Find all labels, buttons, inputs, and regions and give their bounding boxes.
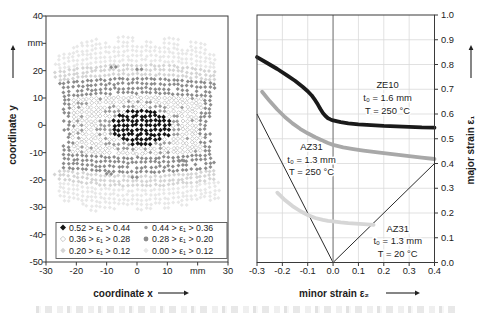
series-label-AZ31-20C: AZ31: [387, 223, 409, 234]
y-tick-label: 0.1: [441, 233, 454, 243]
x-tick-label: -0.1: [300, 266, 316, 276]
y-tick-label: -30: [30, 202, 43, 212]
y-tick-label: 0.6: [441, 109, 454, 119]
y-tick-label: 10: [33, 93, 43, 103]
dots-band-0.44-0.52: [111, 108, 171, 146]
x-axis-title: coordinate x: [93, 288, 153, 299]
x-tick-label: 0.1: [352, 266, 365, 276]
x-tick-label: 0.0: [327, 266, 340, 276]
series-label-AZ31-20C: T = 20 °C: [378, 248, 418, 259]
series-label-ZE10: T = 250 °C: [365, 105, 410, 116]
x-tick-label: 10: [162, 266, 172, 276]
legend-item: 0.52 > ε₁ > 0.44: [60, 223, 130, 233]
legend-item: 0.20 > ε₁ > 0.12: [60, 246, 130, 256]
y-axis-arrow-icon-head: [469, 45, 474, 50]
y-tick-label: 0.7: [441, 84, 454, 94]
x-tick-label: 0.4: [428, 266, 441, 276]
y-tick-label: 0: [38, 120, 43, 130]
legend-label: 0.00 > ε₁ > 0.12: [152, 246, 213, 256]
y-tick-label: 40: [33, 11, 43, 21]
figure-canvas: -30-20-10010mm3040mm20100-10-20-30-40-50…: [0, 0, 486, 317]
legend-label: 0.28 > ε₁ > 0.20: [152, 234, 213, 244]
x-tick-label: -0.2: [274, 266, 290, 276]
series-label-ZE10: ZE10: [376, 79, 398, 90]
series-label-AZ31-20C: t₀ = 1.3 mm: [374, 235, 423, 246]
legend-marker-dark-dot-icon: [144, 237, 149, 242]
y-tick-label: 0.0: [441, 258, 454, 268]
legend-label: 0.52 > ε₁ > 0.44: [69, 223, 130, 233]
series-label-AZ31-250C: T = 250 °C: [289, 166, 334, 177]
x-tick-label: mm: [190, 266, 206, 276]
legend-item: 0.00 > ε₁ > 0.12: [143, 246, 213, 256]
y-tick-label: 0.3: [441, 183, 454, 193]
figure-forming-limit-study: -30-20-10010mm3040mm20100-10-20-30-40-50…: [0, 0, 486, 317]
y-tick-label: 0.8: [441, 60, 454, 70]
caption-fragment-text: [36, 306, 460, 313]
forming-limit-diagram-panel: -0.3-0.2-0.10.00.10.20.30.41.00.90.80.70…: [249, 10, 476, 299]
specimen-strain-map-panel: -30-20-10010mm3040mm20100-10-20-30-40-50…: [7, 11, 233, 299]
y-tick-label: -40: [30, 230, 43, 240]
y-tick-label: 0.2: [441, 208, 454, 218]
x-tick-label: 0.2: [377, 266, 390, 276]
legend-item: 0.36 > ε₁ > 0.28: [60, 234, 130, 244]
y-tick-label: 20: [33, 66, 43, 76]
series-label-AZ31-250C: AZ31: [300, 141, 322, 152]
x-tick-label: -0.3: [249, 266, 265, 276]
x-axis-title: minor strain ε₂: [299, 288, 369, 299]
x-axis-arrow-icon-head: [184, 291, 189, 296]
x-tick-label: -30: [39, 266, 52, 276]
y-tick-label: 0.4: [441, 159, 454, 169]
legend-item: 0.28 > ε₁ > 0.20: [144, 234, 214, 244]
y-axis-arrow-icon-head: [11, 45, 16, 50]
curve-AZ31-20C: [277, 193, 373, 225]
y-tick-label: 0.9: [441, 35, 454, 45]
y-axis-title: coordinate y: [7, 105, 18, 165]
y-tick-label: 0.5: [441, 134, 454, 144]
x-tick-label: 0.3: [403, 266, 416, 276]
y-axis-title: major strain ε₁: [465, 116, 476, 185]
x-tick-label: -10: [100, 266, 113, 276]
legend-label: 0.36 > ε₁ > 0.28: [69, 234, 130, 244]
y-tick-label: mm: [28, 38, 44, 48]
x-tick-label: 30: [223, 266, 233, 276]
series-label-AZ31-250C: t₀ = 1.3 mm: [287, 154, 336, 165]
x-axis-arrow-icon-head: [415, 291, 420, 296]
legend-label: 0.20 > ε₁ > 0.12: [69, 246, 130, 256]
legend-item: 0.44 > ε₁ > 0.36: [144, 223, 213, 233]
y-tick-label: 1.0: [441, 10, 454, 20]
y-tick-label: -10: [30, 148, 43, 158]
x-tick-label: 0: [134, 266, 139, 276]
legend-label: 0.44 > ε₁ > 0.36: [152, 223, 213, 233]
y-tick-label: -20: [30, 175, 43, 185]
legend-marker-gray-dot-icon: [144, 226, 147, 229]
y-tick-label: -50: [30, 257, 43, 267]
x-tick-label: -20: [70, 266, 83, 276]
series-label-ZE10: t₀ = 1.6 mm: [363, 92, 412, 103]
